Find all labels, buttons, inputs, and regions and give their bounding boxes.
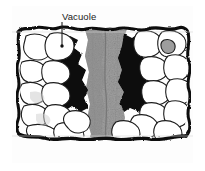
figure-plate: Vacuole [0,0,205,171]
vacuole-pointer-dot [60,44,63,47]
annotation-layer [0,0,205,171]
vacuole-label: Vacuole [62,11,96,22]
